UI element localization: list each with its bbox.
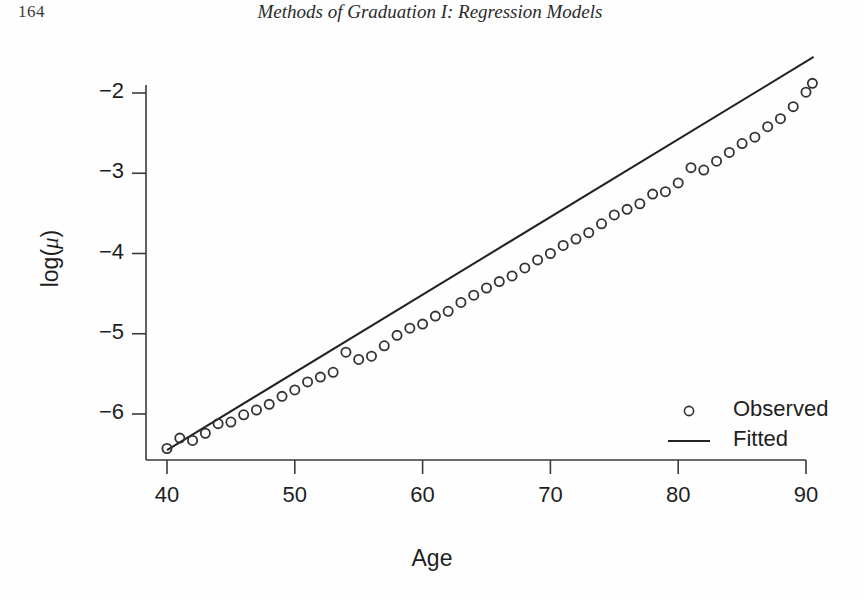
- y-tick-label: −5: [64, 319, 124, 345]
- observed-data-point: [252, 405, 261, 414]
- y-tick-label: −6: [64, 399, 124, 425]
- observed-data-point: [533, 255, 542, 264]
- observed-data-point: [316, 372, 325, 381]
- x-tick-label: 60: [393, 482, 453, 508]
- observed-data-point: [367, 352, 376, 361]
- observed-points-series: [162, 79, 817, 453]
- observed-data-point: [392, 331, 401, 340]
- y-tick-label: −4: [64, 239, 124, 265]
- observed-data-point: [226, 417, 235, 426]
- observed-data-point: [277, 392, 286, 401]
- observed-data-point: [495, 277, 504, 286]
- book-page: 164 Methods of Graduation I: Regression …: [0, 0, 864, 600]
- observed-data-point: [456, 298, 465, 307]
- y-axis-ticks: [132, 93, 146, 414]
- observed-data-point: [239, 410, 248, 419]
- observed-data-point: [610, 210, 619, 219]
- observed-data-point: [546, 249, 555, 258]
- observed-data-point: [801, 88, 810, 97]
- observed-data-point: [303, 377, 312, 386]
- observed-data-point: [418, 320, 427, 329]
- observed-data-point: [380, 341, 389, 350]
- x-tick-label: 50: [265, 482, 325, 508]
- observed-data-point: [444, 307, 453, 316]
- observed-data-point: [431, 311, 440, 320]
- x-tick-label: 80: [648, 482, 708, 508]
- observed-data-point: [354, 355, 363, 364]
- x-axis-ticks: [167, 460, 806, 474]
- x-tick-label: 90: [776, 482, 836, 508]
- observed-data-point: [571, 234, 580, 243]
- observed-data-point: [622, 205, 631, 214]
- y-axis-title: log(μ): [37, 199, 64, 319]
- observed-data-point: [188, 436, 197, 445]
- observed-data-point: [329, 368, 338, 377]
- observed-data-point: [674, 178, 683, 187]
- observed-data-point: [648, 190, 657, 199]
- fitted-regression-line: [167, 57, 814, 450]
- observed-data-point: [265, 400, 274, 409]
- observed-data-point: [597, 219, 606, 228]
- observed-data-point: [341, 348, 350, 357]
- observed-data-point: [763, 122, 772, 131]
- x-tick-label: 40: [137, 482, 197, 508]
- fitted-line-series: [167, 57, 814, 450]
- y-tick-label: −3: [64, 158, 124, 184]
- legend-marker-observed-circle: [684, 406, 693, 415]
- observed-data-point: [290, 385, 299, 394]
- observed-data-point: [214, 419, 223, 428]
- observed-data-point: [686, 163, 695, 172]
- legend-label-observed: Observed: [733, 396, 828, 422]
- observed-data-point: [507, 271, 516, 280]
- legend-marks: [668, 406, 710, 441]
- figure-scatter-plot: Age log(μ) 405060708090−2−3−4−5−6 Observ…: [0, 30, 864, 590]
- observed-data-point: [776, 114, 785, 123]
- page-number: 164: [18, 2, 45, 22]
- legend-label-fitted: Fitted: [733, 426, 788, 452]
- mu-symbol: μ: [38, 237, 63, 249]
- x-axis-title: Age: [0, 545, 864, 572]
- observed-data-point: [405, 324, 414, 333]
- observed-data-point: [725, 148, 734, 157]
- observed-data-point: [750, 133, 759, 142]
- running-head: Methods of Graduation I: Regression Mode…: [180, 1, 680, 23]
- observed-data-point: [808, 79, 817, 88]
- observed-data-point: [520, 263, 529, 272]
- observed-data-point: [661, 187, 670, 196]
- observed-data-point: [584, 228, 593, 237]
- observed-data-point: [469, 291, 478, 300]
- observed-data-point: [789, 102, 798, 111]
- observed-data-point: [738, 139, 747, 148]
- observed-data-point: [559, 241, 568, 250]
- y-tick-label: −2: [64, 78, 124, 104]
- observed-data-point: [201, 429, 210, 438]
- observed-data-point: [699, 165, 708, 174]
- observed-data-point: [712, 157, 721, 166]
- x-tick-label: 70: [520, 482, 580, 508]
- observed-data-point: [635, 199, 644, 208]
- observed-data-point: [482, 283, 491, 292]
